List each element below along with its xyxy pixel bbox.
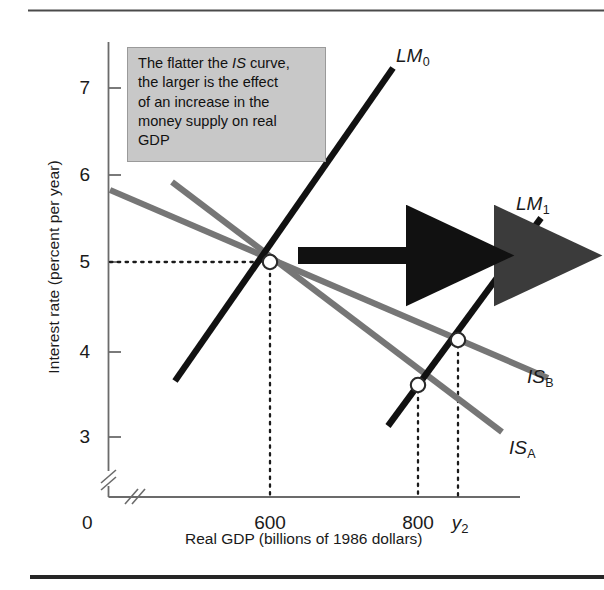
y-tick-label-3: 3 [60,427,90,446]
curve-label-isb: ISB [527,367,553,386]
curve-label-lm1-sub: 1 [543,203,550,217]
y-tick-label-5: 5 [60,252,90,271]
y-axis-title: Interest rate (percent per year) [45,117,63,417]
annotation-line3: of an increase in the [138,94,269,110]
annotation-line1-part-a: The flatter the [138,55,232,71]
y-tick-label-6: 6 [60,165,90,184]
x-tick-label-y2-base: y [452,512,462,533]
curve-label-isb-base: IS [527,366,545,387]
annotation-line1-part-b: curve, [246,55,290,71]
curve-label-isa-sub: A [527,447,535,461]
annotation-line4: money supply on real [138,113,277,129]
x-tick-label-y2: y2 [443,513,477,532]
curve-label-lm0-sub: 0 [423,55,430,69]
curve-label-lm0: LM0 [396,46,429,65]
curve-label-lm0-base: LM [396,45,422,66]
origin-label: 0 [82,513,93,532]
annotation-box: The flatter the IS curve,the larger is t… [127,47,326,162]
annotation-line5: GDP [138,132,170,148]
equilibrium-marker-initial [263,255,277,269]
curve-is-a [172,182,502,432]
curve-label-lm1-base: LM [516,193,542,214]
curve-is-b [110,190,548,378]
annotation-text: The flatter the IS curve,the larger is t… [138,54,316,150]
curve-label-isa: ISA [509,438,535,457]
equilibrium-marker-is-a [411,378,425,392]
y-tick-label-4: 4 [60,342,90,361]
curve-label-isa-base: IS [509,437,527,458]
isl m-figure: The flatter the IS curve,the larger is t… [0,0,604,590]
equilibrium-marker-is-b [451,333,465,347]
y-tick-label-7: 7 [60,78,90,97]
x-tick-label-y2-sub: 2 [461,521,468,536]
annotation-line2: the larger is the effect [138,74,278,90]
curve-label-isb-sub: B [545,376,553,390]
x-axis-title: Real GDP (billions of 1986 dollars) [185,530,423,548]
annotation-line1-emphasis: IS [232,55,246,71]
curve-label-lm1: LM1 [516,194,549,213]
